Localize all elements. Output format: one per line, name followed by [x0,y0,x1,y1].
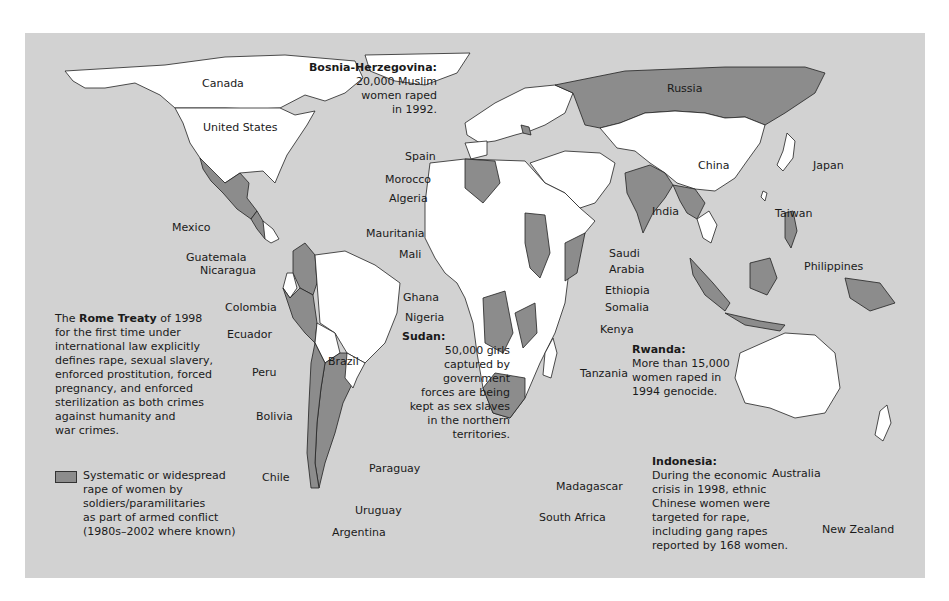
sudan-annotation: Sudan: 50,000 girls captured by governme… [370,330,510,442]
borneo-shape [750,258,777,295]
label-india: India [652,205,679,218]
label-bolivia: Bolivia [256,410,293,423]
sudan-heading: Sudan: [402,330,510,344]
indochina-shape [697,211,717,243]
united-states-shape [175,108,315,183]
label-tanzania: Tanzania [580,367,628,380]
label-canada: Canada [202,77,244,90]
label-algeria: Algeria [389,192,428,205]
label-arabia: Arabia [609,263,645,276]
bosnia-annotation: Bosnia-Herzegovina: 20,000 Muslim women … [247,61,437,117]
label-mauritania: Mauritania [366,227,425,240]
label-spain: Spain [405,150,436,163]
rome-treaty-note: The Rome Treaty of 1998 for the first ti… [55,312,255,438]
nicaragua-shape [263,221,279,243]
label-new-zealand: New Zealand [822,523,894,536]
new-zealand-shape [875,405,891,441]
peru-shape [283,288,317,343]
label-kenya: Kenya [600,323,634,336]
label-paraguay: Paraguay [369,462,420,475]
label-mali: Mali [399,248,421,261]
label-nicaragua: Nicaragua [200,264,256,277]
world-map: Canada United States Mexico Guatemala Ni… [25,33,925,578]
taiwan-shape [761,191,767,201]
label-russia: Russia [667,82,702,95]
label-guatemala: Guatemala [186,251,247,264]
india-shape [625,165,673,233]
europe-shape [465,85,573,143]
label-uruguay: Uruguay [355,504,402,517]
label-ethiopia: Ethiopia [605,284,650,297]
label-ghana: Ghana [403,291,439,304]
label-japan: Japan [813,159,844,172]
china-shape [600,111,765,191]
indonesia-annotation: Indonesia: During the economic crisis in… [652,455,822,553]
label-united-states: United States [203,121,278,134]
label-china: China [698,159,729,172]
rwanda-heading: Rwanda: [632,343,782,357]
japan-shape [777,133,795,171]
legend-swatch [55,471,77,483]
map-legend: Systematic or widespread rape of women b… [55,469,285,539]
label-philippines: Philippines [804,260,863,273]
rwanda-annotation: Rwanda: More than 15,000 women raped in … [632,343,782,399]
rome-treaty-title: Rome Treaty [79,312,157,325]
new-guinea-shape [845,278,895,311]
bosnia-heading: Bosnia-Herzegovina: [247,61,437,75]
spain-shape [465,141,487,159]
label-taiwan: Taiwan [775,207,812,220]
label-somalia: Somalia [605,301,649,314]
label-argentina: Argentina [332,526,386,539]
java-shape [725,313,785,331]
label-nigeria: Nigeria [405,311,444,324]
indonesia-heading: Indonesia: [652,455,822,469]
sumatra-shape [690,258,730,311]
label-morocco: Morocco [385,173,431,186]
label-brazil: Brazil [328,355,359,368]
label-madagascar: Madagascar [556,480,623,493]
label-peru: Peru [252,366,277,379]
label-south-africa: South Africa [539,511,606,524]
label-mexico: Mexico [172,221,210,234]
label-saudi: Saudi [609,247,640,260]
